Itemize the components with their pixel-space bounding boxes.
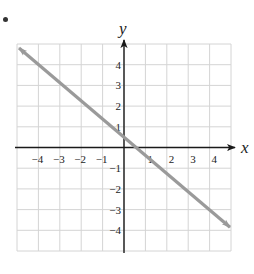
x-tick-label: −2 bbox=[74, 153, 86, 165]
y-tick-label: −1 bbox=[109, 162, 121, 174]
y-axis-label: y bbox=[117, 19, 127, 38]
x-axis-label: x bbox=[240, 138, 249, 157]
y-tick-label: −2 bbox=[109, 183, 121, 195]
y-tick-label: 2 bbox=[116, 100, 122, 112]
x-tick-label: 3 bbox=[190, 153, 196, 165]
x-tick-label: −1 bbox=[96, 153, 108, 165]
x-tick-label: −4 bbox=[32, 153, 44, 165]
x-tick-label: 2 bbox=[169, 153, 175, 165]
x-tick-label: 4 bbox=[212, 153, 218, 165]
coordinate-plane: xy−4−3−2−11234−4−3−2−11234 bbox=[0, 0, 254, 274]
y-tick-label: 3 bbox=[116, 79, 122, 91]
y-tick-label: −4 bbox=[109, 224, 121, 236]
y-tick-label: 4 bbox=[116, 59, 122, 71]
x-tick-label: −3 bbox=[53, 153, 65, 165]
y-tick-label: −3 bbox=[109, 204, 121, 216]
